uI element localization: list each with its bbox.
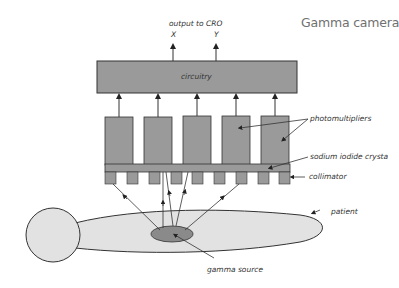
output-x-label: X	[170, 30, 177, 39]
output-y-label: Y	[214, 30, 220, 39]
sodium-iodide-crystal	[105, 164, 290, 172]
patient-label: patient	[330, 207, 359, 216]
circuitry-label: circuitry	[181, 72, 212, 81]
photomultipliers-label: photomultipliers	[309, 114, 371, 123]
crystal-label: sodium iodide crystal	[310, 152, 388, 161]
photomultipliers	[105, 116, 289, 165]
pmt-arrows	[119, 96, 275, 117]
gamma-source-label: gamma source	[207, 265, 263, 274]
collimator	[105, 172, 290, 184]
output-arrows	[173, 46, 216, 61]
output-label: output to CRO	[169, 19, 222, 28]
collimator-label: collimator	[309, 172, 347, 181]
